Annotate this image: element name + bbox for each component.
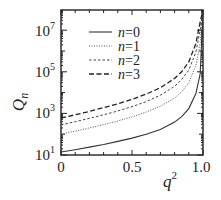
x-tick-label-0: 0 — [57, 159, 65, 175]
x-tick-label-0.5: 0.5 — [123, 159, 142, 175]
y-tick-label-1e7: 107 — [35, 20, 55, 39]
legend-item-n2: n=2 — [89, 53, 140, 68]
y-tick-label-1e3: 103 — [35, 102, 55, 121]
legend-item-n1: n=1 — [89, 39, 140, 54]
y-tick-label-1e5: 105 — [35, 61, 55, 80]
svg-text:n=3: n=3 — [118, 67, 140, 82]
legend-item-n0: n=0 — [89, 25, 140, 40]
x-tick-label-1.0: 1.0 — [192, 159, 211, 175]
y-axis-title: Qn — [9, 93, 31, 111]
y-tick-label-1e1: 101 — [35, 144, 55, 163]
svg-text:n=1: n=1 — [118, 39, 140, 54]
legend: n=0 n=1 n=2 n=3 — [89, 25, 140, 82]
svg-text:n=2: n=2 — [118, 53, 140, 68]
chart-figure: 107 105 103 101 0 0.5 1.0 q2 Qn n=0 n=1 … — [0, 0, 221, 200]
y-tick-labels: 107 105 103 101 — [35, 20, 55, 163]
legend-item-n3: n=3 — [89, 67, 140, 82]
svg-text:n=0: n=0 — [118, 25, 140, 40]
x-tick-labels: 0 0.5 1.0 — [57, 159, 210, 175]
x-axis-title: q2 — [163, 169, 177, 191]
